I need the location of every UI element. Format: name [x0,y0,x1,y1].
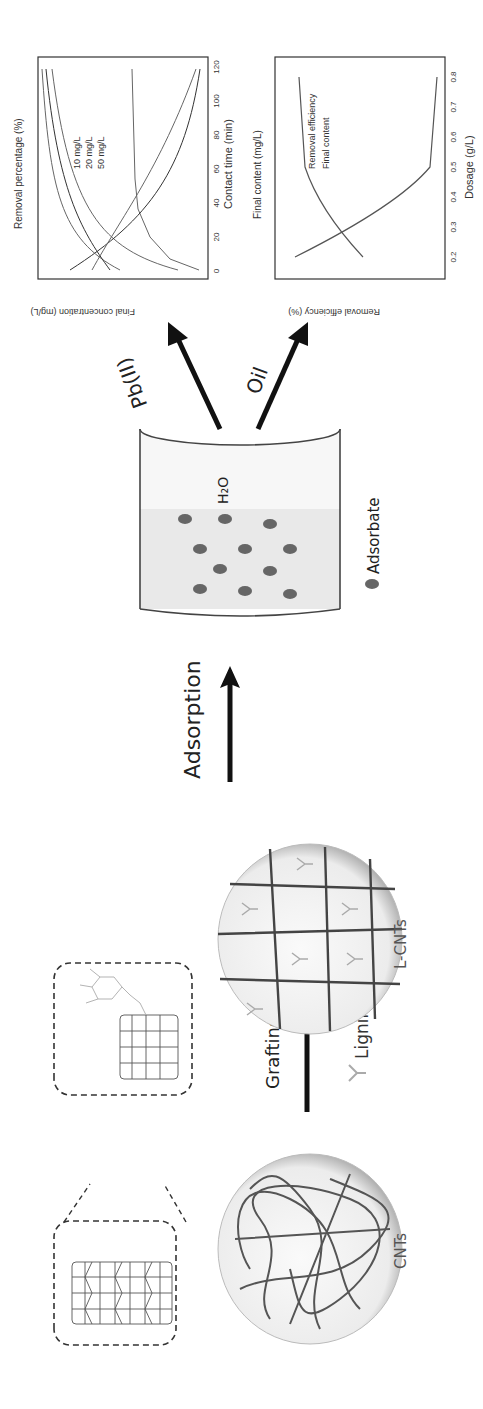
nanotube-icon [72,1262,172,1324]
svg-text:0.8: 0.8 [449,71,458,83]
svg-text:0.2: 0.2 [449,251,458,263]
cnt-zoom-box [50,1209,190,1349]
nanotube-icon [120,1015,178,1079]
svg-text:0: 0 [212,268,221,273]
svg-text:0.5: 0.5 [449,161,458,173]
cnts-label: CNTs [392,1233,410,1269]
svg-text:60: 60 [212,164,221,173]
cnts-sphere [210,1149,410,1349]
svg-text:0.3: 0.3 [449,221,458,233]
svg-text:80: 80 [212,130,221,139]
pb-arrow-icon [178,339,220,429]
branch-arrows [140,314,340,434]
lcnts-label: L-CNTs [392,919,410,969]
svg-text:0.6: 0.6 [449,131,458,143]
pb-chart-xlabel: Contact time (min) [222,119,234,209]
pb-chart: Final concentration (mg/L) Contact time … [0,0,240,319]
legend-10: 10 mg/L [72,136,82,169]
adsorption-label: Adsorption [180,660,205,779]
legend-final-content: Final content [321,117,331,169]
lignin-structure-icon [80,969,146,1015]
lignin-icon [345,1062,367,1084]
svg-text:0.4: 0.4 [449,191,458,203]
lcnt-zoom-box [50,959,200,1099]
pb-chart-y2label: Removal percentage (%) [13,118,24,229]
svg-text:100: 100 [212,94,221,108]
svg-text:0.7: 0.7 [449,101,458,113]
lcnts-sphere [210,839,410,1039]
svg-text:120: 120 [212,60,221,74]
adsorbate-legend-label: Adsorbate [365,497,383,574]
svg-text:40: 40 [212,198,221,207]
pb-chart-ylabel: Final concentration (mg/L) [30,307,135,317]
adsorption-arrow-icon [218,664,242,784]
legend-removal: Removal efficiency [307,93,317,169]
oil-chart: Removal efficiency (%) Dosage (g/L) Fina… [245,0,483,319]
oil-chart-ylabel: Removal efficiency (%) [288,307,380,317]
pb-chart-curves [42,69,200,270]
oil-chart-xlabel: Dosage (g/L) [463,135,475,199]
svg-text:20: 20 [212,232,221,241]
zoom-guide-lines-cnts [60,1164,200,1224]
water-label: H₂O [215,477,231,504]
legend-20: 20 mg/L [84,136,94,169]
legend-50: 50 mg/L [96,136,106,169]
oil-chart-y2label: Final content (mg/L) [252,130,263,219]
figure-canvas: CNTs Grafting Lignin [0,0,483,1409]
adsorbate-legend-icon [365,579,379,589]
